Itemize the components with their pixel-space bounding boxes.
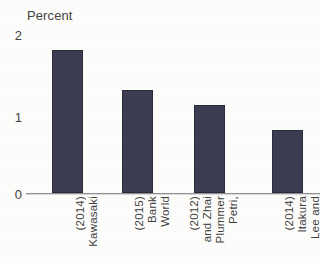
x-axis-label-world-bank-2015: World Bank (2015) <box>106 196 172 264</box>
chart-title: Percent <box>27 8 73 23</box>
plot-area: 2 1 0 <box>28 28 320 194</box>
x-axis-label-line: Petri, <box>227 196 240 224</box>
bar-petri-plummer-zhai-2012 <box>194 105 225 193</box>
bar-world-bank-2015 <box>122 90 153 193</box>
bar-series <box>28 28 320 194</box>
x-axis-label-kawasaki-2014: Kawasaki (2014) <box>34 196 100 264</box>
y-axis-tick-0: 0 <box>15 188 22 201</box>
x-axis-label-line: (2014) <box>283 196 296 230</box>
x-axis-label-petri-plummer-zhai-2012: Petri, Plummer and Zhai (2012) <box>174 196 240 264</box>
x-axis-label-line: and Zhai <box>201 196 214 242</box>
x-axis-label-line: Bank <box>146 196 159 223</box>
x-axis-label-line: World <box>159 196 172 227</box>
y-axis-tick-2: 2 <box>15 29 22 42</box>
x-axis-labels: Kawasaki (2014) World Bank (2015) Petri,… <box>28 196 320 264</box>
x-axis-label-line: Plummer <box>214 196 227 243</box>
bar-chart: Percent 2 1 0 Kawasaki (2014) World Bank… <box>0 0 320 264</box>
x-axis-label-line: Itakura <box>296 196 309 233</box>
x-axis-label-line: (2014) <box>74 196 87 230</box>
bar-lee-itakura-2014 <box>272 130 303 193</box>
y-axis-tick-1: 1 <box>15 111 22 124</box>
x-axis-label-lee-itakura-2014: Lee and Itakura (2014) <box>256 196 320 264</box>
x-axis-label-line: Lee and <box>309 196 320 239</box>
x-axis-label-line: (2012) <box>188 196 201 230</box>
x-axis-label-line: Kawasaki <box>87 196 100 247</box>
x-axis-label-line: (2015) <box>133 196 146 230</box>
bar-kawasaki-2014 <box>52 50 83 193</box>
